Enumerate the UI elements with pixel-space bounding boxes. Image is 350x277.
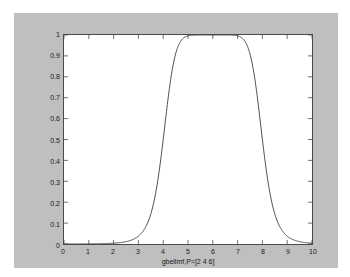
y-tick-label: 0.4	[50, 157, 60, 164]
x-tick-label: 4	[161, 248, 165, 255]
plot-svg	[64, 35, 312, 244]
x-tick-label: 8	[261, 248, 265, 255]
x-tick-label: 2	[111, 248, 115, 255]
y-tick-label: 1	[56, 31, 60, 38]
y-tick-label: 0.2	[50, 199, 60, 206]
x-tick-label: 3	[136, 248, 140, 255]
y-axis-tick-labels: 00.10.20.30.40.50.60.70.80.91	[32, 34, 60, 245]
x-tick-label: 6	[211, 248, 215, 255]
y-tick-label: 0.6	[50, 115, 60, 122]
y-tick-label: 0.9	[50, 52, 60, 59]
y-tick-label: 0.5	[50, 136, 60, 143]
y-tick-label: 0.3	[50, 178, 60, 185]
matlab-figure-canvas: 00.10.20.30.40.50.60.70.80.91 0123456789…	[14, 13, 338, 268]
x-tick-label: 1	[86, 248, 90, 255]
x-axis-title: gbellmf,P=[2 4 6]	[63, 258, 313, 265]
x-tick-label: 5	[186, 248, 190, 255]
x-tick-label: 7	[236, 248, 240, 255]
y-tick-label: 0.7	[50, 94, 60, 101]
screenshot-root: 00.10.20.30.40.50.60.70.80.91 0123456789…	[0, 0, 350, 277]
y-tick-label: 0.1	[50, 220, 60, 227]
x-tick-label: 9	[286, 248, 290, 255]
gbellmf-curve	[64, 35, 312, 244]
y-tick-label: 0	[56, 242, 60, 249]
y-tick-label: 0.8	[50, 73, 60, 80]
x-tick-label: 0	[61, 248, 65, 255]
plot-axes	[63, 34, 313, 245]
x-tick-label: 10	[309, 248, 317, 255]
